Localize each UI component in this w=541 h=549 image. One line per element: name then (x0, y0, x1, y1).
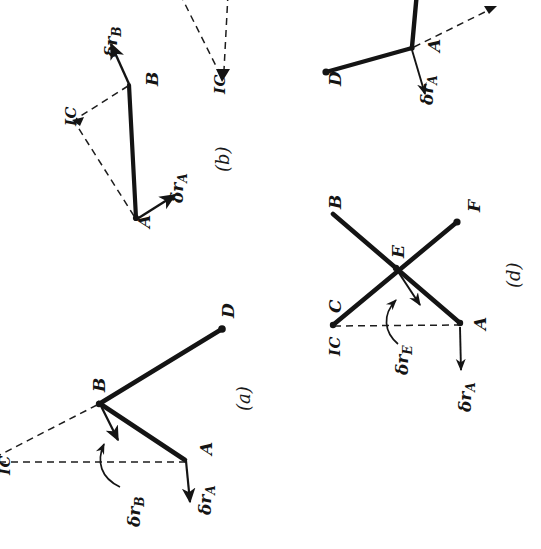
figure-b-label-drA: δrA (167, 173, 190, 203)
figure-a-dashed-B-to-IC (0, 405, 97, 458)
figure-c-label-A: A (424, 39, 444, 52)
figure-c-drA-delta: δ (417, 94, 437, 105)
figure-a-label-drA: δrA (195, 485, 218, 515)
diagram-canvas (0, 0, 541, 549)
figure-b-drA-delta: δ (167, 192, 187, 203)
figure-a-leader-drB (100, 444, 120, 487)
figure-d-label-C: C (325, 299, 345, 313)
figure-b-label-B: B (142, 72, 162, 86)
figure-a-point-D-dot (218, 325, 226, 333)
figure-b-label-drB: δrB (101, 26, 124, 57)
figure-d-vector-drA (460, 327, 461, 370)
figure-a-drA-r: r (195, 495, 215, 504)
figure-c-ic-ray-diagonal (180, 0, 219, 72)
figure-c-label-drA: δrA (417, 75, 440, 105)
figure-d-label-A: A (470, 317, 490, 330)
figure-a-drA-delta: δ (195, 504, 215, 515)
figure-c-ic-arrowhead (484, 6, 497, 14)
figure-d-dashed-IC-to-A (334, 325, 459, 326)
figure-c-group (322, 0, 497, 94)
figure-c-drA-sub: A (426, 75, 440, 85)
figure-a-group (0, 325, 226, 502)
figure-a-label-drB: δrB (124, 496, 147, 527)
figure-b-drA-sub: A (176, 173, 190, 183)
figure-d-label-E: E (388, 245, 408, 258)
figure-c-label-IC: IC (211, 74, 229, 94)
figure-b-drB-sub: B (110, 26, 124, 36)
figure-b-dashed-A-to-IC (74, 121, 134, 216)
figure-a-link-BD (99, 329, 222, 404)
figure-c-label-D: D (325, 71, 345, 86)
figure-b-dashed-B-to-IC (76, 86, 128, 119)
figure-d-label-F: F (464, 200, 484, 212)
figure-a-drB-r: r (124, 507, 144, 516)
figure-d-caption: (d) (503, 262, 524, 288)
figure-d-drA-r: r (455, 392, 475, 401)
figure-a-caption: (a) (233, 386, 254, 411)
figure-b-drB-r: r (101, 37, 121, 46)
figure-d-drA-delta: δ (455, 401, 475, 412)
figure-a-link-BA (99, 403, 185, 460)
figure-d-label-drA: δrA (455, 382, 478, 412)
figure-c-ic-rays-group (180, 0, 230, 82)
figure-b-drA-r: r (167, 183, 187, 192)
figure-b-link-AB (129, 85, 136, 218)
figure-b-group (72, 44, 175, 221)
figure-a-drA-sub: A (204, 485, 218, 495)
figure-a-label-B: B (89, 378, 109, 392)
figure-d-drA-sub: A (464, 382, 478, 392)
figure-d-label-drE: δrE (392, 345, 415, 375)
figure-d-drE-r: r (392, 355, 412, 364)
figure-d-label-B: B (325, 195, 345, 209)
figure-d-point-F-dot (453, 218, 460, 225)
figure-a-label-D: D (218, 303, 238, 318)
figure-d-leader-drE (386, 300, 398, 344)
figure-b-caption: (b) (212, 146, 233, 172)
figure-c-point-A-dot (409, 45, 414, 50)
figure-c-link-vertical (412, 0, 417, 47)
figure-page: A B IC δrA δrB (b) A D δrA IC (c) A B D … (0, 0, 541, 549)
figure-d-drE-delta: δ (392, 364, 412, 375)
figure-d-label-IC: IC (326, 336, 344, 356)
figure-b-drB-delta: δ (101, 46, 121, 57)
figure-c-ic-ray-vertical (224, 0, 228, 70)
figure-a-label-IC: IC (0, 455, 14, 475)
figure-c-link-AD (326, 48, 412, 72)
figure-a-label-A: A (196, 442, 216, 455)
figure-a-vector-drA (186, 461, 190, 502)
figure-d-link-CF (333, 222, 457, 325)
figure-d-point-C-dot (330, 322, 336, 328)
figure-d-drE-sub: E (401, 345, 415, 354)
figure-a-drB-delta: δ (124, 516, 144, 527)
figure-b-label-IC: IC (62, 106, 80, 126)
figure-c-drA-r: r (417, 85, 437, 94)
figure-b-label-A: A (134, 215, 154, 228)
figure-a-drB-sub: B (133, 496, 147, 506)
